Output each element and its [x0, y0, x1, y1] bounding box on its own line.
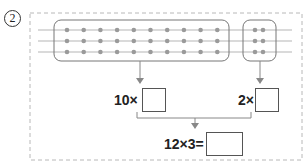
left-answer-box[interactable]: [142, 88, 166, 112]
equation-label: 12×3=: [164, 136, 204, 152]
right-multiplier-label: 2×: [238, 92, 254, 108]
right-answer-box[interactable]: [255, 88, 279, 112]
total-answer-box[interactable]: [206, 132, 243, 156]
left-multiplier-label: 10×: [114, 92, 138, 108]
dot-array-diagram: [0, 0, 305, 162]
